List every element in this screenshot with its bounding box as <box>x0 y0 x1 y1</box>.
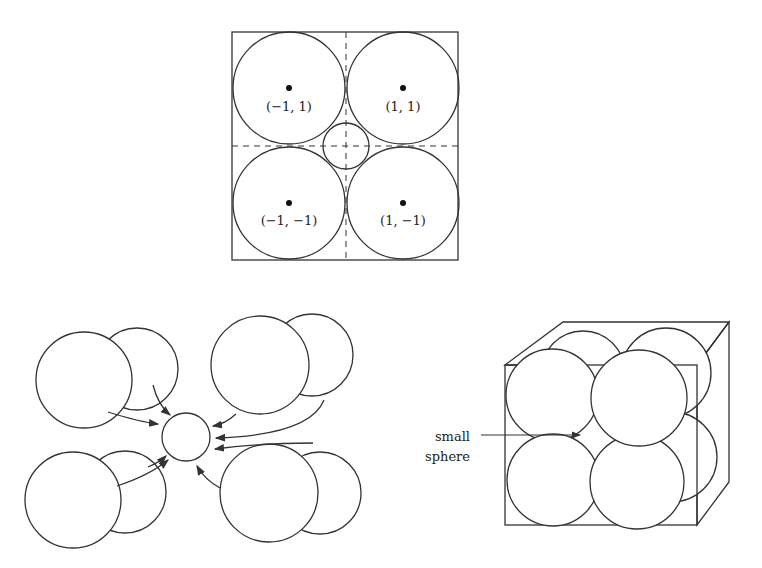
diagram-canvas: (−1, 1) (1, 1) (−1, −1) (1, −1) <box>0 0 762 568</box>
sphere-front <box>220 444 318 542</box>
exploded-spheres-diagram <box>25 314 361 548</box>
arrow <box>213 414 236 426</box>
coord-label: (−1, −1) <box>261 213 318 228</box>
sphere-front <box>591 350 687 446</box>
figure: (−1, 1) (1, 1) (−1, −1) (1, −1) <box>0 0 762 568</box>
sphere-front <box>36 332 132 428</box>
arrow <box>108 412 158 424</box>
coord-label: (−1, 1) <box>266 99 312 114</box>
coord-label: (1, −1) <box>380 213 426 228</box>
center-dot <box>286 200 292 206</box>
sphere-front <box>211 316 309 414</box>
small-sphere-label: small <box>435 429 470 444</box>
small-sphere-label: sphere <box>425 449 470 464</box>
arrow <box>197 466 220 488</box>
sphere-front <box>590 435 684 529</box>
sphere-front <box>25 452 121 548</box>
cube-diagram: small sphere <box>425 322 729 529</box>
sphere-front <box>506 349 598 441</box>
coord-label: (1, 1) <box>386 99 421 114</box>
center-dot <box>286 85 292 91</box>
small-sphere <box>162 413 210 461</box>
center-dot <box>400 200 406 206</box>
center-dot <box>400 85 406 91</box>
top-square-diagram: (−1, 1) (1, 1) (−1, −1) (1, −1) <box>232 32 459 260</box>
sphere-front <box>507 434 599 526</box>
